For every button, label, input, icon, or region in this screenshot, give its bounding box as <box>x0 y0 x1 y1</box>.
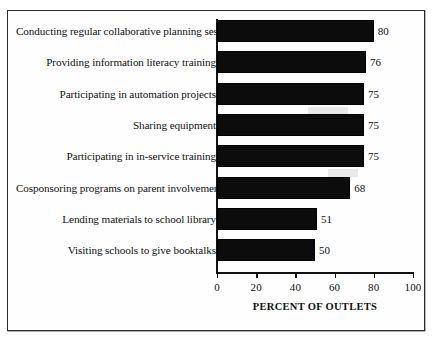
x-axis-tick-label: 60 <box>315 281 355 294</box>
bar-category-label: Participating in in-service training <box>16 147 216 166</box>
bar-row: Conducting regular collaborative plannin… <box>8 20 426 43</box>
bar-category-label: Conducting regular collaborative plannin… <box>16 22 216 41</box>
x-axis-tick-label: 0 <box>197 281 237 294</box>
bar <box>217 145 364 167</box>
bar <box>217 114 364 136</box>
x-axis-tick-label: 80 <box>354 281 394 294</box>
bar-row: Sharing equipment75 <box>8 114 426 137</box>
x-axis-title: PERCENT OF OUTLETS <box>216 301 414 312</box>
x-axis-tick <box>295 273 296 278</box>
bar-category-label: Participating in automation projects <box>16 85 216 104</box>
bar-row: Lending materials to school library51 <box>8 208 426 231</box>
x-axis-tick-label: 20 <box>236 281 276 294</box>
bar-value-label: 80 <box>378 23 389 40</box>
x-axis-tick <box>413 273 414 278</box>
bar-category-label: Lending materials to school library <box>16 210 216 229</box>
bar-category-label: Visiting schools to give booktalks <box>16 241 216 260</box>
bar-category-label: Cosponsoring programs on parent involvem… <box>16 179 216 198</box>
bar-value-label: 75 <box>368 117 379 134</box>
figure-frame: Conducting regular collaborative plannin… <box>7 10 425 331</box>
bar-category-label: Sharing equipment <box>16 116 216 135</box>
bar <box>217 51 366 73</box>
x-axis-tick <box>217 273 218 278</box>
bar-value-label: 75 <box>368 148 379 165</box>
x-axis-tick-label: 100 <box>393 281 432 294</box>
bar-row: Participating in automation projects75 <box>8 83 426 106</box>
bar <box>217 83 364 105</box>
bar-row: Providing information literacy training7… <box>8 51 426 74</box>
bar <box>217 239 315 261</box>
bar-row: Visiting schools to give booktalks50 <box>8 239 426 262</box>
x-axis-line <box>216 272 414 274</box>
x-axis-tick-label: 40 <box>275 281 315 294</box>
bar-value-label: 76 <box>370 54 381 71</box>
x-axis-tick <box>256 273 257 278</box>
bar-row: Cosponsoring programs on parent involvem… <box>8 177 426 200</box>
x-axis-tick <box>374 273 375 278</box>
bar <box>217 177 350 199</box>
bar-value-label: 75 <box>368 86 379 103</box>
x-axis-tick <box>335 273 336 278</box>
bar-value-label: 50 <box>319 242 330 259</box>
bar-value-label: 51 <box>321 211 332 228</box>
bar-chart-plot-area: Conducting regular collaborative plannin… <box>8 11 426 332</box>
bar <box>217 20 374 42</box>
bar-row: Participating in in-service training75 <box>8 145 426 168</box>
bar-category-label: Providing information literacy training <box>16 53 216 72</box>
bar <box>217 208 317 230</box>
bar-value-label: 68 <box>354 180 365 197</box>
